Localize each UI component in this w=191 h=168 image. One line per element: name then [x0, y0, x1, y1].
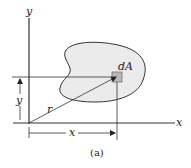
x-dimension-label: x: [69, 126, 76, 139]
x-axis-label: x: [176, 116, 183, 129]
radius-label: r: [47, 103, 53, 116]
area-moment-diagram: y x dA r x y (a): [0, 0, 191, 168]
figure-caption: (a): [90, 147, 104, 158]
y-axis-label: y: [25, 5, 33, 18]
area-element: [112, 72, 122, 82]
element-label: dA: [118, 60, 133, 73]
y-dimension-label: y: [15, 94, 23, 107]
